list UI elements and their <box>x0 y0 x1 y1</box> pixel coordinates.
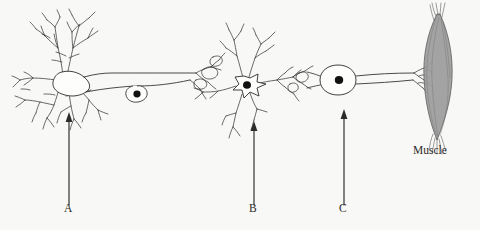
nucleus-neuron-2 <box>243 81 251 89</box>
soma-neuron-3 <box>320 65 356 95</box>
nucleus-neuron-3 <box>335 76 343 84</box>
pointer-arrow-b <box>251 121 258 205</box>
diagram-canvas <box>0 0 480 230</box>
dendrite-tree-neuron-1 <box>12 9 108 130</box>
schwann-cell-nucleus <box>126 86 147 102</box>
pointer-label-c: C <box>339 203 347 215</box>
soma-neuron-1 <box>53 71 90 96</box>
neuron-diagram-figure: A B C Muscle <box>0 0 480 230</box>
pointer-arrow-c <box>341 109 348 205</box>
pointer-label-b: B <box>249 203 257 215</box>
muscle-label: Muscle <box>413 145 447 157</box>
pointer-label-a: A <box>64 203 72 215</box>
soma-neuron-3-hillock-left <box>307 72 320 88</box>
muscle-body <box>424 3 452 154</box>
axon-neuron-3 <box>356 73 414 84</box>
